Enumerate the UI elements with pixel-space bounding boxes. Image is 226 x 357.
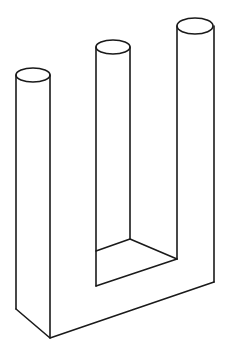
impossible-figure [0,0,226,357]
left-prong [16,68,50,338]
right-prong [177,18,214,282]
rectangular-base [16,239,214,338]
